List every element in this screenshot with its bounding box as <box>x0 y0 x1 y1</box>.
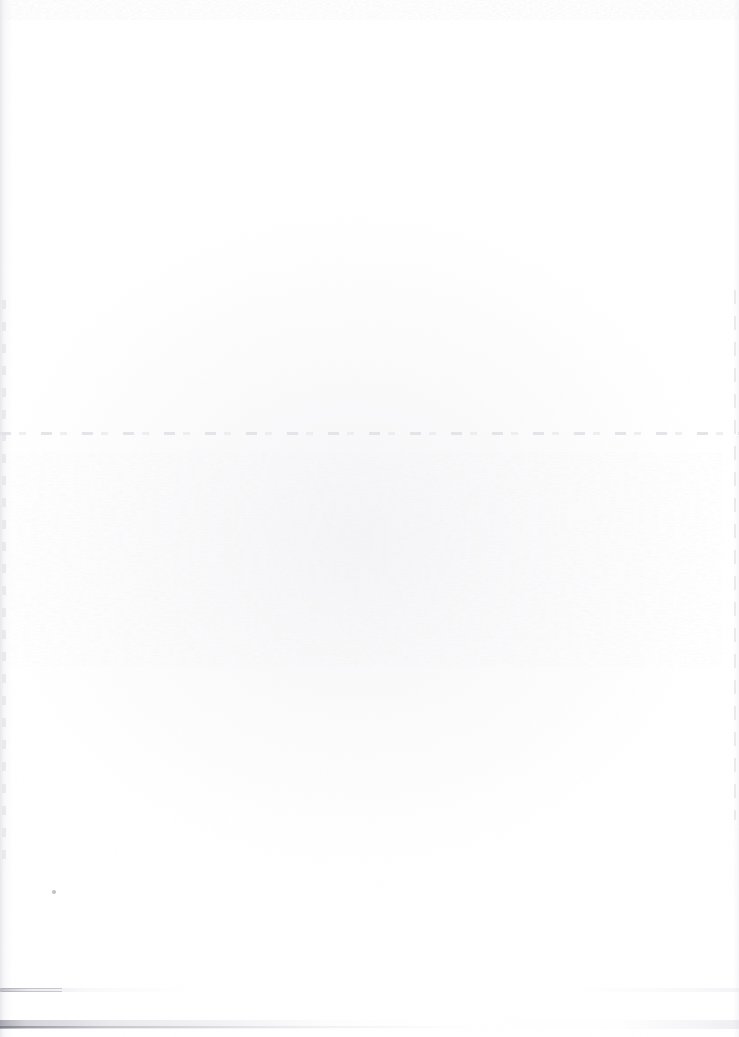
bleed-through-ghost-texture <box>10 452 722 667</box>
right-edge-gradient <box>733 0 739 1037</box>
bottom-streak-upper <box>0 988 739 992</box>
lower-speckle-icon <box>0 680 739 910</box>
left-gutter-streak <box>2 300 6 860</box>
scanned-page <box>0 0 739 1037</box>
top-speckle-icon <box>0 0 739 20</box>
isolated-dark-speck <box>52 890 56 894</box>
left-gutter-shadow <box>0 0 12 1037</box>
bottom-streak-hairline <box>0 1026 470 1028</box>
top-edge-speckle-band <box>0 0 739 20</box>
lower-speckle-field <box>0 680 739 910</box>
faint-horizontal-rule <box>0 432 739 435</box>
right-scanner-edge-line <box>734 290 736 820</box>
bottom-left-dash-mark <box>2 988 62 994</box>
paper-noise-icon <box>0 0 739 1037</box>
bleed-through-icon <box>10 452 722 667</box>
bottom-streak-lower <box>0 1020 739 1029</box>
paper-noise-layer <box>0 0 739 1037</box>
